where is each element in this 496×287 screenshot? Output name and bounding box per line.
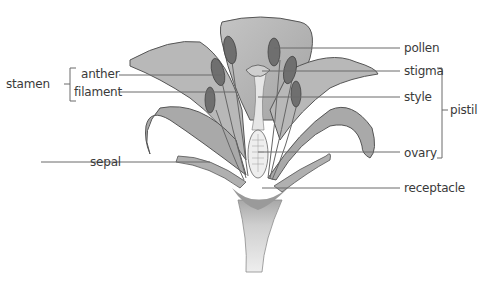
label-pollen: pollen — [404, 41, 439, 55]
anther-4 — [268, 38, 280, 66]
label-receptacle: receptacle — [404, 181, 465, 195]
label-stigma: stigma — [404, 64, 444, 78]
label-ovary: ovary — [404, 146, 437, 160]
label-style: style — [404, 90, 432, 104]
label-anther: anther — [81, 67, 119, 81]
anther-3 — [205, 87, 215, 113]
label-filament: filament — [74, 85, 122, 99]
stem — [238, 200, 282, 272]
pistil-bracket — [437, 68, 448, 158]
anther-6 — [291, 81, 301, 107]
label-stamen: stamen — [6, 77, 50, 91]
label-sepal: sepal — [90, 155, 121, 169]
label-pistil: pistil — [450, 103, 477, 117]
